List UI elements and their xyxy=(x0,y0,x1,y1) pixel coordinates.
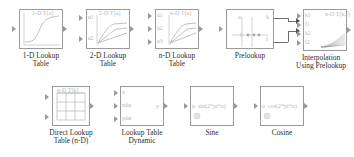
wire-k-horizontal xyxy=(274,18,288,19)
grid-table-icon xyxy=(52,86,90,126)
port-label-k: k xyxy=(266,14,269,20)
block-caption: Lookup Table Dynamic xyxy=(106,129,178,146)
port-label-f-inner: f xyxy=(240,32,242,38)
block-caption: Direct Lookup Table (n-D) xyxy=(35,129,107,146)
block-caption: 1-D Lookup Table xyxy=(5,52,77,69)
port-label-u2: u2 xyxy=(88,35,94,41)
input-port-arrow-x[interactable] xyxy=(114,90,118,96)
port-label-u: u xyxy=(238,14,241,20)
wire-k-to-port xyxy=(288,21,296,22)
port-label-u1: u1 xyxy=(88,14,94,20)
input-port-arrow-u1[interactable] xyxy=(79,15,83,21)
input-port-arrow-2[interactable] xyxy=(45,114,49,120)
output-port-arrow[interactable] xyxy=(90,103,94,109)
input-port-arrow-u3[interactable] xyxy=(148,39,152,45)
input-port-arrow[interactable] xyxy=(219,26,223,32)
sine-mark-icon xyxy=(190,86,234,126)
block-caption: Cosine xyxy=(246,129,318,137)
block-library-canvas: 1-D T(u) 1-D Lookup Table 2-D T(u) u1 u2… xyxy=(0,0,354,157)
port-label-k1: k1 xyxy=(305,12,311,18)
input-port-arrow-f1[interactable] xyxy=(297,22,301,28)
input-port-arrow-xdat[interactable] xyxy=(114,103,118,109)
input-port-arrow[interactable] xyxy=(12,26,16,32)
port-label-f2: f2 xyxy=(305,39,310,45)
port-label-f: f xyxy=(266,36,268,42)
port-label-u1: u1 xyxy=(157,12,163,18)
wire-f-vertical xyxy=(288,31,289,42)
input-port-arrow-k1[interactable] xyxy=(297,13,301,19)
port-label-u3: u3 xyxy=(157,38,163,44)
wire-f-to-port xyxy=(288,31,296,32)
input-port-arrow-1[interactable] xyxy=(45,94,49,100)
input-port-arrow[interactable] xyxy=(184,103,188,109)
port-label-u2: u2 xyxy=(157,25,163,31)
block-caption: Sine xyxy=(176,129,248,137)
block-caption: Prelookup xyxy=(216,52,284,60)
input-port-arrow-ydat[interactable] xyxy=(114,116,118,122)
output-port-arrow[interactable] xyxy=(304,103,308,109)
port-label-f1: f1 xyxy=(305,21,310,27)
output-port-arrow[interactable] xyxy=(234,103,238,109)
input-port-arrow-u2[interactable] xyxy=(79,36,83,42)
input-port-arrow-u1[interactable] xyxy=(148,13,152,19)
input-port-arrow[interactable] xyxy=(254,103,258,109)
output-port-arrow[interactable] xyxy=(130,26,134,32)
sigmoid-curve-icon xyxy=(19,9,63,49)
port-label-k2: k2 xyxy=(305,30,311,36)
input-port-arrow-f2[interactable] xyxy=(297,40,301,46)
port-label-ydat: ydat xyxy=(122,115,132,121)
input-port-arrow-u2[interactable] xyxy=(148,26,152,32)
block-caption: Interpolation Using Prelookup xyxy=(288,54,354,71)
output-port-arrow[interactable] xyxy=(63,26,67,32)
block-caption: n-D Lookup Table xyxy=(141,52,213,69)
input-port-arrow-k2[interactable] xyxy=(297,31,301,37)
sine-mark-icon xyxy=(260,86,304,126)
output-port-arrow[interactable] xyxy=(199,26,203,32)
output-port-arrow[interactable] xyxy=(347,27,351,33)
wire-f-horizontal xyxy=(274,42,288,43)
port-label-y: y xyxy=(156,103,159,109)
port-label-x: x xyxy=(122,89,125,95)
port-label-xdat: xdat xyxy=(122,102,132,108)
block-caption: 2-D Lookup Table xyxy=(72,52,144,69)
output-port-arrow[interactable] xyxy=(164,103,168,109)
